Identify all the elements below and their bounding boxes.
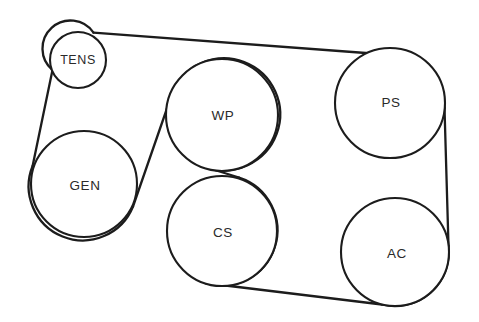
pulley-label-gen: GEN [69,178,100,193]
belt-diagram-canvas: TENS GEN WP CS PS AC [0,0,479,322]
pulley-label-cs: CS [213,225,233,240]
pulley-label-tens: TENS [60,53,96,67]
pulleys-group [31,32,449,306]
pulley-label-ac: AC [387,246,407,261]
belt-routing-diagram: TENS GEN WP CS PS AC [0,0,479,322]
belt-segment-ps-to-ac [445,108,449,246]
pulley-label-wp: WP [212,108,235,123]
pulley-label-ps: PS [381,95,400,110]
belt-segment-tens-to-ps [94,33,373,54]
